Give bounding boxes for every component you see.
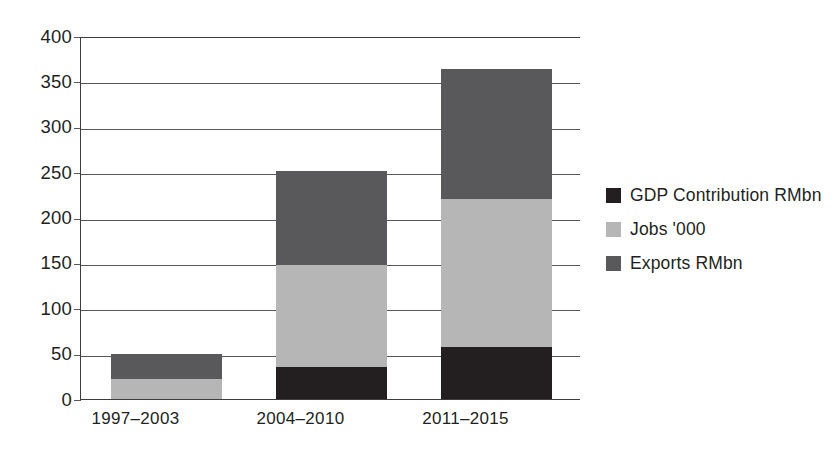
legend: GDP Contribution RMbn Jobs '000 Exports … bbox=[606, 178, 822, 280]
x-tick-label-2004-2010: 2004–2010 bbox=[245, 409, 356, 429]
y-tick-label-50: 50 bbox=[6, 345, 72, 364]
bar-stack bbox=[276, 171, 387, 399]
bar-segment-gdp-contribution[interactable] bbox=[441, 347, 552, 399]
bar-segment-jobs[interactable] bbox=[276, 265, 387, 368]
y-tick-label-200: 200 bbox=[6, 209, 72, 228]
legend-item-exports[interactable]: Exports RMbn bbox=[606, 246, 822, 280]
bar-group-1997-2003[interactable] bbox=[111, 38, 222, 399]
x-tick-label-2011-2015: 2011–2015 bbox=[410, 409, 521, 429]
bar-segment-exports[interactable] bbox=[276, 171, 387, 265]
legend-item-jobs[interactable]: Jobs '000 bbox=[606, 212, 822, 246]
bar-stack bbox=[441, 69, 552, 399]
legend-swatch-icon bbox=[606, 222, 621, 237]
y-tick-label-400: 400 bbox=[6, 28, 72, 47]
legend-label: Exports RMbn bbox=[630, 253, 743, 274]
bar-segment-gdp-contribution[interactable] bbox=[276, 367, 387, 399]
legend-swatch-icon bbox=[606, 256, 621, 271]
bar-segment-jobs[interactable] bbox=[441, 199, 552, 347]
bar-segment-exports[interactable] bbox=[441, 69, 552, 199]
bar-group-2004-2010[interactable] bbox=[276, 38, 387, 399]
legend-label: GDP Contribution RMbn bbox=[630, 185, 822, 206]
y-tick-label-100: 100 bbox=[6, 300, 72, 319]
legend-label: Jobs '000 bbox=[630, 219, 706, 240]
y-axis: 400 350 300 250 200 150 100 50 0 bbox=[0, 0, 72, 457]
legend-item-gdp-contribution[interactable]: GDP Contribution RMbn bbox=[606, 178, 822, 212]
y-tick-mark-0 bbox=[74, 400, 81, 401]
y-tick-label-250: 250 bbox=[6, 164, 72, 183]
stacked-bar-chart: 400 350 300 250 200 150 100 50 0 bbox=[0, 0, 837, 457]
bar-stack bbox=[111, 354, 222, 399]
legend-swatch-icon bbox=[606, 188, 621, 203]
bar-segment-jobs[interactable] bbox=[111, 379, 222, 399]
plot-area bbox=[80, 37, 580, 400]
y-tick-label-150: 150 bbox=[6, 254, 72, 273]
bar-group-2011-2015[interactable] bbox=[441, 38, 552, 399]
y-tick-label-300: 300 bbox=[6, 118, 72, 137]
y-tick-label-350: 350 bbox=[6, 73, 72, 92]
y-tick-label-0: 0 bbox=[6, 391, 72, 410]
x-tick-label-1997-2003: 1997–2003 bbox=[80, 409, 191, 429]
bar-segment-exports[interactable] bbox=[111, 354, 222, 379]
